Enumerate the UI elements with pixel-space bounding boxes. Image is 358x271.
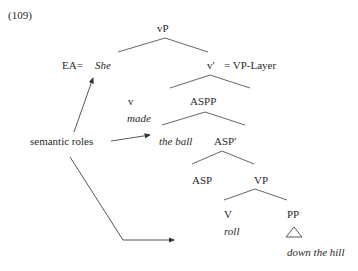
node-pp: PP: [287, 208, 299, 220]
example-number: (109): [8, 9, 32, 21]
word-roll: roll: [224, 225, 240, 237]
node-v-bar: v': [207, 59, 214, 71]
phrase-down-the-hill: down the hill: [287, 246, 344, 258]
node-asp: ASP: [192, 174, 212, 186]
node-aspp: ASPP: [190, 95, 216, 107]
node-she: She: [95, 59, 111, 71]
vp-layer-note: = VP-Layer: [224, 59, 276, 71]
node-v: v: [128, 95, 134, 107]
semantic-roles-label: semantic roles: [30, 135, 93, 147]
pp-triangle-icon: [286, 227, 302, 237]
ea-label: EA=: [62, 59, 83, 71]
node-asp-bar: ASP': [214, 135, 236, 147]
node-V: V: [224, 208, 232, 220]
node-vp: VP: [254, 174, 268, 186]
node-vP: vP: [157, 22, 169, 34]
word-made: made: [127, 112, 151, 124]
node-the-ball: the ball: [159, 135, 192, 147]
